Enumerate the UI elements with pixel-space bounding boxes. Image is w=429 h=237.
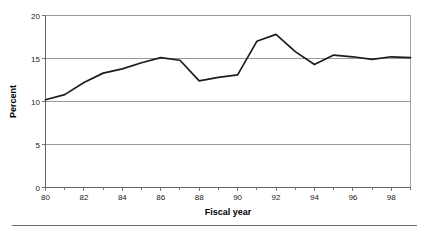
x-tick-label-80: 80 xyxy=(41,193,50,202)
x-tick-label-84: 84 xyxy=(118,193,127,202)
y-tick-label-15: 15 xyxy=(31,55,40,64)
y-tick-label-10: 10 xyxy=(31,98,40,107)
x-tick-label-82: 82 xyxy=(79,193,88,202)
gridlines-group xyxy=(46,16,411,145)
y-tick-label-5: 5 xyxy=(36,141,41,150)
series-group xyxy=(46,34,411,99)
x-tick-label-90: 90 xyxy=(233,193,242,202)
y-axis-title: Percent xyxy=(8,85,18,118)
x-axis-title: Fiscal year xyxy=(205,207,252,217)
y-tick-label-0: 0 xyxy=(36,184,41,193)
x-tick-label-92: 92 xyxy=(272,193,281,202)
x-tick-label-98: 98 xyxy=(387,193,396,202)
x-tick-label-94: 94 xyxy=(310,193,319,202)
x-tick-label-86: 86 xyxy=(156,193,165,202)
x-tick-label-88: 88 xyxy=(195,193,204,202)
series-line-percent xyxy=(46,34,411,99)
x-tick-label-96: 96 xyxy=(348,193,357,202)
y-tick-label-20: 20 xyxy=(31,12,40,21)
x-axis-ticks: 80828486889092949698 xyxy=(41,188,410,202)
y-axis-ticks: 05101520 xyxy=(31,12,45,193)
line-chart: 0510152080828486889092949698PercentFisca… xyxy=(0,0,429,237)
chart-figure: 0510152080828486889092949698PercentFisca… xyxy=(0,0,429,237)
